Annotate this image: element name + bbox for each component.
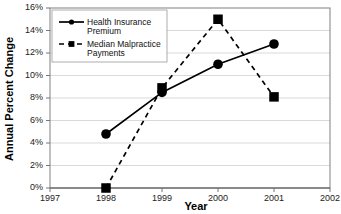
x-axis-tick-label: 2001	[264, 193, 284, 203]
legend-label-line2: Premium	[87, 26, 121, 36]
y-axis-tick-label: 8%	[30, 92, 43, 102]
y-axis-tick-label: 10%	[25, 70, 43, 80]
x-axis-tick-label: 1999	[152, 193, 172, 203]
line-chart: 0%2%4%6%8%10%12%14%16% 19971998199920002…	[0, 0, 341, 214]
data-point-square	[213, 15, 223, 25]
chart-container: 0%2%4%6%8%10%12%14%16% 19971998199920002…	[0, 0, 341, 214]
y-axis-tick-label: 14%	[25, 25, 43, 35]
data-point-circle	[213, 59, 223, 69]
legend-circle-marker	[69, 19, 74, 24]
y-axis-tick-label: 12%	[25, 47, 43, 57]
y-axis-tick-label: 6%	[30, 115, 43, 125]
chart-legend: Health Insurance Premium Median Malpract…	[52, 10, 167, 62]
y-axis-tick-label: 0%	[30, 182, 43, 192]
legend-square-marker	[69, 41, 75, 47]
x-axis-tick-label: 2002	[320, 193, 340, 203]
y-axis-tick-label: 16%	[25, 2, 43, 12]
data-point-square	[269, 92, 279, 102]
data-point-circle	[101, 129, 111, 139]
data-point-square	[101, 183, 111, 193]
x-axis-tick-label: 1998	[96, 193, 116, 203]
x-axis-tick-label: 2000	[208, 193, 228, 203]
y-axis-tick-labels: 0%2%4%6%8%10%12%14%16%	[25, 2, 43, 192]
data-point-square	[157, 83, 167, 93]
y-axis-ticks	[46, 8, 50, 188]
x-axis-ticks	[50, 188, 330, 192]
y-axis-tick-label: 2%	[30, 160, 43, 170]
y-axis-title: Annual Percent Change	[3, 37, 15, 161]
legend-label-line2: Payments	[87, 48, 125, 58]
x-axis-title: Year	[184, 200, 208, 212]
x-axis-tick-label: 1997	[40, 193, 60, 203]
data-point-circle	[269, 39, 279, 49]
y-axis-tick-label: 4%	[30, 137, 43, 147]
